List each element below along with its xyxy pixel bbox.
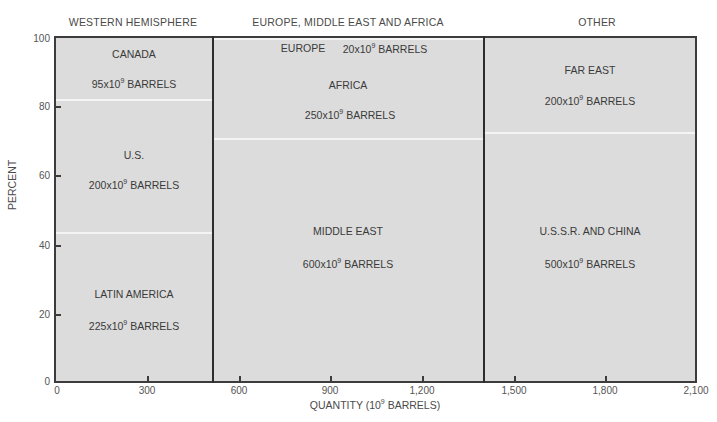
x-tick-label-300: 300: [139, 385, 156, 396]
segment-value-middle-east: 600x109 BARRELS: [303, 257, 393, 270]
x-tick-label-1200: 1,200: [409, 385, 434, 396]
x-tick-label-1500: 1,500: [501, 385, 526, 396]
y-tick-label-20: 20: [28, 309, 50, 320]
column-divider-emea-other: [483, 36, 485, 383]
segment-name-canada: CANADA: [112, 48, 156, 60]
x-tick-label-2100: 2,100: [683, 385, 708, 396]
segment-value-canada: 95x109 BARRELS: [92, 77, 176, 90]
segment-name-latin-america: LATIN AMERICA: [94, 288, 173, 300]
y-tick-20: [54, 314, 61, 316]
x-tick-label-600: 600: [231, 385, 248, 396]
x-tick-label-900: 900: [322, 385, 339, 396]
column-divider-west-emea: [212, 36, 214, 383]
group-title-emea: EUROPE, MIDDLE EAST AND AFRICA: [252, 16, 443, 28]
y-tick-label-0: 0: [28, 376, 50, 387]
group-title-western-hemisphere: WESTERN HEMISPHERE: [69, 16, 197, 28]
y-tick-40: [54, 245, 61, 247]
separator-europe-africa: [214, 38, 483, 40]
x-tick-1200: [422, 376, 424, 383]
x-tick-1500: [514, 376, 516, 383]
x-tick-600: [239, 376, 241, 383]
x-tick-900: [330, 376, 332, 383]
x-tick-1800: [605, 376, 607, 383]
segment-name-europe: EUROPE: [281, 42, 325, 54]
separator-us-latin-america: [56, 232, 212, 234]
segment-value-europe: 20x109 BARRELS: [343, 42, 427, 55]
y-tick-label-60: 60: [28, 170, 50, 181]
separator-africa-middle-east: [214, 138, 483, 140]
segment-name-africa: AFRICA: [329, 79, 368, 91]
x-tick-300: [147, 376, 149, 383]
group-title-other: OTHER: [578, 16, 616, 28]
y-tick-label-80: 80: [28, 101, 50, 112]
segment-value-latin-america: 225x109 BARRELS: [89, 319, 179, 332]
segment-name-far-east: FAR EAST: [565, 64, 616, 76]
y-axis-label: PERCENT: [6, 160, 18, 210]
segment-value-ussr-china: 500x109 BARRELS: [545, 257, 635, 270]
separator-canada-us: [56, 99, 212, 101]
segment-name-ussr-china: U.S.S.R. AND CHINA: [540, 225, 641, 237]
x-tick-label-0: 0: [54, 385, 60, 396]
x-axis-label: QUANTITY (109 BARRELS): [310, 398, 440, 411]
segment-value-us: 200x109 BARRELS: [89, 178, 179, 191]
y-tick-label-100: 100: [28, 33, 50, 44]
y-tick-80: [54, 106, 61, 108]
x-tick-label-1800: 1,800: [592, 385, 617, 396]
y-tick-label-40: 40: [28, 240, 50, 251]
separator-far-east-ussr: [485, 132, 695, 134]
segment-value-africa: 250x109 BARRELS: [305, 108, 395, 121]
segment-name-middle-east: MIDDLE EAST: [313, 225, 383, 237]
segment-name-us: U.S.: [124, 149, 144, 161]
y-tick-60: [54, 175, 61, 177]
segment-value-far-east: 200x109 BARRELS: [545, 94, 635, 107]
